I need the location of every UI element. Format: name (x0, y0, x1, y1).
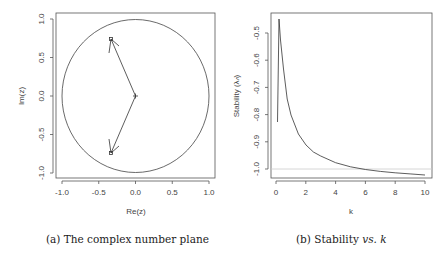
svg-text:-0.5: -0.5 (37, 127, 46, 141)
stability-curve (278, 19, 426, 175)
arrow-lower (111, 96, 136, 153)
y-axis (50, 19, 53, 173)
svg-text:-0.8: -0.8 (252, 107, 261, 121)
svg-text:-1.0: -1.0 (55, 188, 69, 197)
svg-text:-0.6: -0.6 (252, 53, 261, 67)
svg-text:4: 4 (333, 188, 338, 197)
y-axis (265, 33, 268, 169)
svg-text:-0.9: -0.9 (252, 134, 261, 148)
right-x-axis-label: k (349, 207, 354, 216)
x-axis (62, 181, 209, 184)
svg-text:0.0: 0.0 (130, 188, 142, 197)
right-y-axis-label: Stability (λₙ) (232, 74, 241, 117)
svg-text:-0.7: -0.7 (252, 80, 261, 94)
caption-b-italic: vs. (362, 233, 377, 245)
left-y-axis-label: Im(z) (17, 87, 26, 106)
right-x-tick-labels: 0 2 4 6 8 10 (274, 188, 430, 197)
plot-frame (271, 13, 432, 178)
left-y-tick-labels: 1.0 0.5 0.0 -0.5 -1.0 (37, 13, 46, 180)
stability-plot (265, 13, 432, 184)
svg-text:-0.5: -0.5 (92, 188, 106, 197)
svg-text:-0.5: -0.5 (252, 26, 261, 40)
svg-text:1.0: 1.0 (203, 188, 215, 197)
svg-text:1.0: 1.0 (37, 13, 46, 25)
svg-text:0.5: 0.5 (167, 188, 179, 197)
right-y-tick-labels: -0.5 -0.6 -0.7 -0.8 -0.9 -1.0 (252, 26, 261, 176)
svg-text:0.5: 0.5 (37, 51, 46, 63)
svg-text:-1.0: -1.0 (37, 166, 46, 180)
complex-plane-plot (50, 13, 215, 184)
svg-text:0: 0 (274, 188, 279, 197)
svg-text:2: 2 (304, 188, 309, 197)
figure: -1.0 -0.5 0.0 0.5 1.0 1.0 0.5 0.0 -0.5 -… (0, 0, 447, 257)
svg-text:8: 8 (393, 188, 398, 197)
caption-a: (a) The complex number plane (46, 233, 209, 245)
arrow-upper (111, 39, 136, 96)
caption-b-suffix: k (377, 233, 387, 245)
x-axis (276, 181, 425, 184)
origin-marker (133, 94, 138, 99)
svg-text:6: 6 (363, 188, 368, 197)
svg-text:10: 10 (421, 188, 430, 197)
left-x-axis-label: Re(z) (126, 207, 146, 216)
svg-text:0.0: 0.0 (37, 90, 46, 102)
left-x-tick-labels: -1.0 -0.5 0.0 0.5 1.0 (55, 188, 215, 197)
caption-b: (b) Stability vs. k (296, 233, 387, 245)
svg-text:-1.0: -1.0 (252, 162, 261, 176)
caption-b-prefix: (b) Stability (296, 233, 362, 245)
